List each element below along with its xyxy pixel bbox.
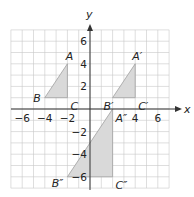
y-tick-label: 2: [80, 80, 87, 92]
vertex-label: C′: [138, 100, 149, 113]
vertex-label: B: [33, 92, 41, 105]
y-tick-label: 4: [80, 58, 87, 70]
x-axis-label: x: [183, 103, 191, 116]
x-tick-label: −4: [37, 112, 53, 124]
vertex-label: B″: [52, 177, 65, 190]
coordinate-plane: x y −6−4−246642−2−4−6 ABCA′B′C′A″B″C″: [0, 0, 194, 197]
y-tick-label: 6: [80, 35, 87, 47]
vertex-label: A′: [131, 50, 143, 63]
x-axis-arrow-icon: [175, 106, 182, 112]
y-tick-label: −4: [72, 148, 88, 160]
vertex-label: A: [65, 50, 74, 63]
vertex-label: C: [70, 100, 78, 113]
y-axis-arrow-icon: [87, 24, 93, 31]
vertex-label: B′: [104, 100, 115, 113]
y-tick-label: −2: [72, 126, 87, 138]
y-axis-label: y: [85, 8, 93, 21]
x-tick-label: 6: [154, 112, 161, 124]
x-tick-label: −6: [14, 112, 30, 124]
x-tick-label: −2: [60, 112, 75, 124]
y-tick-label: −6: [72, 171, 88, 183]
x-tick-label: 4: [132, 112, 139, 124]
vertex-label: C″: [116, 179, 129, 192]
vertex-label: A″: [115, 112, 129, 125]
